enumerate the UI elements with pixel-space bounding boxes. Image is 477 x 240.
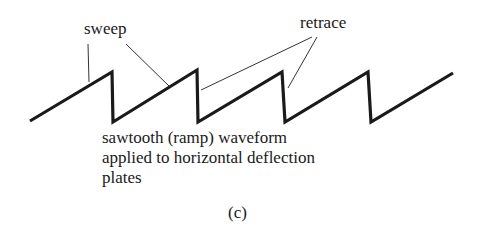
caption-line-3: plates	[102, 168, 315, 188]
sawtooth-waveform	[30, 70, 453, 122]
sweep-leader-line-2	[126, 44, 170, 87]
caption-line-2: applied to horizontal deflection	[102, 148, 315, 168]
retrace-leader-line-2	[288, 37, 317, 88]
retrace-leader-line-1	[201, 37, 312, 90]
caption-line-1: sawtooth (ramp) waveform	[102, 128, 315, 148]
figure-label: (c)	[228, 203, 247, 223]
sweep-leader-line-1	[88, 44, 89, 82]
sweep-label: sweep	[84, 19, 126, 38]
waveform-caption: sawtooth (ramp) waveform applied to hori…	[102, 128, 315, 188]
retrace-label: retrace	[300, 13, 346, 32]
